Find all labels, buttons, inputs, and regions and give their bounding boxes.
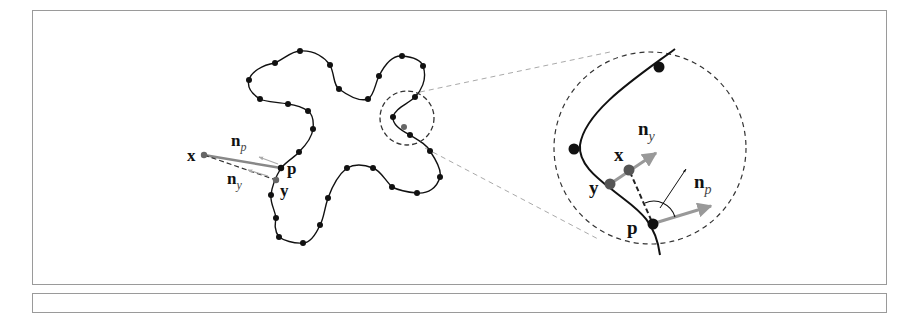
label-y-left: y — [280, 181, 289, 200]
zoom-region-circle-large — [554, 52, 746, 244]
zoomed-sample-point-top — [654, 62, 665, 73]
label-n-y-right: ny — [638, 118, 656, 144]
label-x-left: x — [187, 146, 196, 165]
normal-n-p-arrow — [655, 206, 711, 223]
perpendicular-arrow — [660, 169, 686, 208]
sample-points — [246, 48, 443, 246]
label-n-p-left: np — [231, 131, 246, 154]
zoomed-sample-point-mid — [569, 144, 580, 155]
zoom-region-highlight-point — [401, 124, 407, 130]
zoom-region-circle-small — [380, 91, 434, 145]
label-y-right: y — [589, 177, 599, 198]
label-n-p-right: np — [694, 171, 712, 197]
label-p-right: p — [627, 217, 638, 238]
left-annotations — [201, 152, 284, 183]
shape-boundary-curve — [249, 51, 441, 243]
label-x-right: x — [614, 144, 624, 165]
zoomed-point-x — [624, 165, 635, 176]
zoomed-point-y — [605, 179, 616, 190]
zoom-connector-lines — [420, 52, 610, 240]
zoomed-point-p — [648, 219, 659, 230]
label-p-left: p — [287, 159, 296, 178]
label-n-y-left: ny — [227, 169, 242, 192]
angle-arc — [645, 201, 675, 217]
